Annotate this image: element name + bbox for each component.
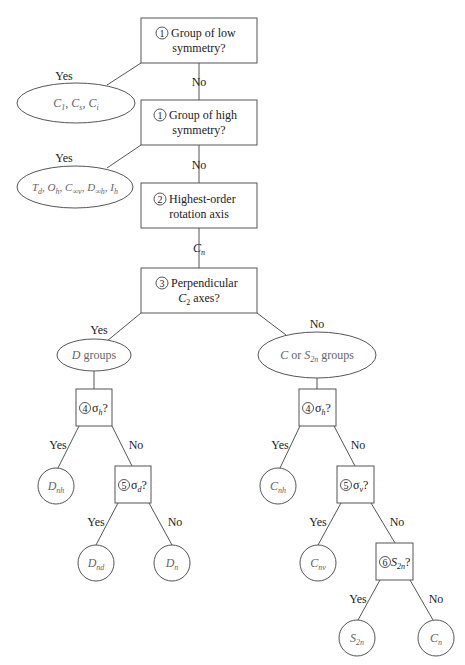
result-dnh: Dnh [38, 468, 74, 504]
question-highest-order-axis: 2 Highest-order rotation axis [141, 183, 257, 228]
step-number: 5 [122, 480, 127, 491]
question-sigma-h-right: 4 σh? [299, 389, 336, 426]
edge-label-yes: Yes [90, 323, 108, 337]
question-text: Group of low [171, 26, 236, 40]
result-text: D groups [71, 348, 117, 362]
edge-label-no: No [129, 438, 144, 452]
edge-label-no: No [351, 438, 366, 452]
edge-label-no: No [429, 592, 444, 606]
question-text: symmetry? [172, 41, 225, 55]
edge-label-yes: Yes [349, 592, 367, 606]
edge-label-cn: Cn [193, 241, 205, 257]
edge-label-yes: Yes [55, 69, 73, 83]
edge-label-yes: Yes [271, 438, 289, 452]
question-text: Highest-order [169, 192, 236, 206]
step-number: 4 [83, 403, 88, 414]
question-text: rotation axis [169, 207, 229, 221]
result-low-symmetry: C1, Cs, Ci [17, 83, 135, 123]
result-d-groups: D groups [57, 339, 131, 371]
edge-label-no: No [390, 515, 405, 529]
result-high-symmetry: Td, Oh, C∞v, D∞h, Ih [17, 166, 133, 208]
question-s2n: 6 S2n? [376, 543, 413, 580]
edge-label-yes: Yes [49, 438, 67, 452]
edge-label-no: No [168, 515, 183, 529]
step-number: 1 [158, 110, 163, 121]
question-text: Perpendicular [171, 276, 238, 290]
question-sigma-d: 5 σd? [115, 466, 151, 503]
edge-label-yes: Yes [87, 515, 105, 529]
edge-label-yes: Yes [309, 515, 327, 529]
edge-label-no: No [192, 158, 207, 172]
step-number: 5 [344, 480, 349, 491]
question-sigma-v: 5 σv? [337, 466, 374, 503]
edge-label-no: No [192, 75, 207, 89]
result-dn: Dn [154, 545, 190, 581]
result-dnd: Dnd [78, 545, 114, 581]
step-number: 6 [383, 557, 388, 568]
question-perpendicular-c2: 3 Perpendicular C2 axes? [141, 268, 257, 313]
question-text: C2 axes? [178, 291, 220, 307]
step-number: 2 [158, 194, 163, 205]
question-high-symmetry: 1 Group of high symmetry? [141, 100, 257, 145]
step-number: 4 [306, 403, 311, 414]
question-low-symmetry: 1 Group of low symmetry? [141, 18, 257, 63]
result-cn: Cn [418, 620, 454, 656]
result-s2n: S2n [339, 620, 375, 656]
result-text: C1, Cs, Ci [53, 96, 98, 112]
flowchart: Yes No Yes No Cn Yes No Yes No Yes No Ye… [0, 0, 465, 665]
result-c-or-s2n-groups: C or S2n groups [258, 332, 376, 378]
question-text: Group of high [169, 108, 237, 122]
edge-label-no: No [310, 317, 325, 331]
result-cnh: Cnh [260, 468, 296, 504]
edge-label-yes: Yes [55, 151, 73, 165]
question-sigma-h-left: 4 σh? [76, 389, 112, 426]
step-number: 3 [160, 278, 165, 289]
result-cnv: Cnv [300, 545, 336, 581]
question-text: symmetry? [172, 123, 225, 137]
step-number: 1 [160, 28, 165, 39]
